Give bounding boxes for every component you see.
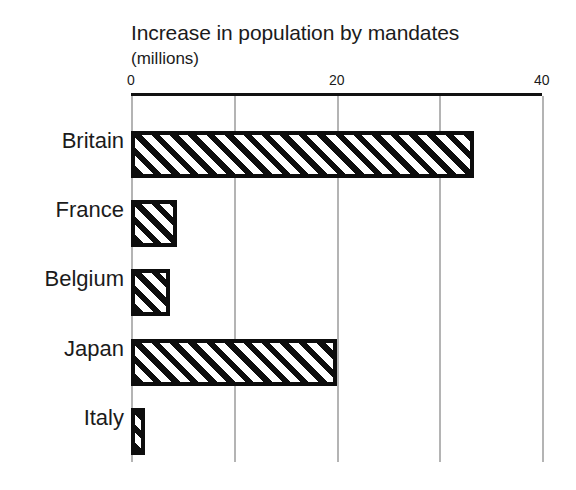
bar-belgium [131,269,170,316]
gridline-40 [542,96,544,462]
x-tick-label-20: 20 [329,72,345,88]
x-tick-label-0: 0 [127,72,135,88]
category-label-france: France [0,197,124,223]
x-tick-label-40: 40 [534,72,550,88]
category-axis: Britain France Belgium Japan Italy [0,93,124,462]
category-label-japan: Japan [0,336,124,362]
category-label-belgium: Belgium [0,266,124,292]
bar-japan [131,339,337,386]
bar-row-france [131,200,542,247]
bar-france [131,200,177,247]
category-label-italy: Italy [0,405,124,431]
chart-title: Increase in population by mandates [131,20,459,46]
bar-britain [131,131,474,178]
bar-chart: Increase in population by mandates (mill… [0,0,576,490]
bar-row-britain [131,131,542,178]
plot-area [131,93,542,462]
bar-row-belgium [131,269,542,316]
category-label-britain: Britain [0,128,124,154]
chart-subtitle-units: (millions) [131,48,199,69]
bar-row-japan [131,339,542,386]
bars-layer [131,93,542,462]
bar-italy [131,408,145,455]
bar-row-italy [131,408,542,455]
